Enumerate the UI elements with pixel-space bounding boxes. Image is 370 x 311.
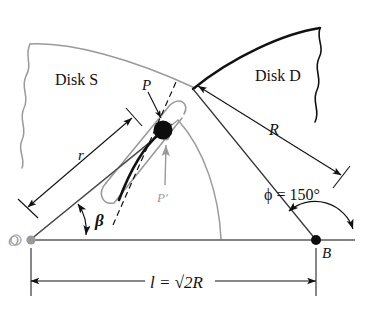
label-radius-r-small: r bbox=[78, 147, 84, 163]
disk-d-torn-edge bbox=[315, 28, 321, 122]
figure-canvas: Disk S Disk D r R P P′ O B β ϕ = 150° l … bbox=[0, 0, 370, 311]
label-angle-phi: ϕ = 150° bbox=[264, 186, 320, 204]
dimension-tick-r2 bbox=[126, 108, 142, 126]
label-point-p-prime: P′ bbox=[156, 190, 168, 205]
leader-arrow-p-prime bbox=[165, 145, 166, 185]
label-point-o: O bbox=[8, 233, 19, 249]
disk-s-slot-track-2 bbox=[106, 101, 186, 183]
label-length-l: l = √2R bbox=[150, 273, 204, 292]
label-angle-beta: β bbox=[94, 211, 104, 230]
disk-s-inner-arc bbox=[178, 120, 221, 239]
disk-s-group bbox=[20, 44, 221, 240]
leader-arrow-p bbox=[148, 92, 161, 118]
label-point-p: P bbox=[141, 77, 151, 93]
label-point-b: B bbox=[322, 245, 331, 261]
label-disk-s: Disk S bbox=[55, 71, 98, 88]
dimension-tick-r bbox=[18, 199, 38, 218]
point-o-dot bbox=[26, 235, 35, 244]
point-b-dot bbox=[311, 235, 321, 245]
point-p-dot bbox=[154, 121, 173, 140]
mechanism-diagram-svg: Disk S Disk D r R P P′ O B β ϕ = 150° l … bbox=[0, 0, 370, 311]
label-radius-r-big: R bbox=[268, 121, 279, 138]
dimension-tick-R bbox=[333, 166, 350, 188]
link-b-to-arc bbox=[193, 89, 316, 240]
angle-phi-arc bbox=[289, 201, 353, 229]
label-disk-d: Disk D bbox=[255, 67, 301, 84]
angle-beta-arc bbox=[78, 204, 86, 235]
disk-s-torn-edge bbox=[20, 44, 30, 168]
